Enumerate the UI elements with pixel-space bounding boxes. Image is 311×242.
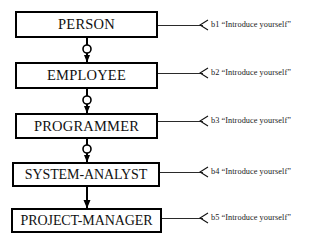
node-box-system-analyst[interactable]: SYSTEM-ANALYST bbox=[12, 162, 160, 187]
node-box-programmer[interactable]: PROGRAMMER bbox=[15, 113, 158, 139]
message-label-b5: b5 “Introduce yourself” bbox=[211, 213, 291, 222]
message-arrowhead-b5 bbox=[199, 212, 209, 224]
node-label-person: PERSON bbox=[58, 17, 115, 32]
node-box-employee[interactable]: EMPLOYEE bbox=[15, 62, 158, 89]
node-label-employee: EMPLOYEE bbox=[47, 68, 126, 83]
message-label-b3: b3 “Introduce yourself” bbox=[211, 116, 291, 125]
connector-person-employee bbox=[79, 38, 95, 63]
connector-system-analyst-project-manager bbox=[79, 187, 95, 209]
message-line-b4 bbox=[160, 172, 203, 173]
node-label-programmer: PROGRAMMER bbox=[34, 119, 139, 134]
node-label-system-analyst: SYSTEM-ANALYST bbox=[25, 168, 147, 182]
node-box-project-manager[interactable]: PROJECT-MANAGER bbox=[11, 208, 162, 233]
message-line-b2 bbox=[158, 73, 203, 74]
message-label-b2: b2 “Introduce yourself” bbox=[211, 68, 291, 77]
node-box-person[interactable]: PERSON bbox=[15, 11, 158, 38]
message-arrowhead-b2 bbox=[199, 67, 209, 79]
message-arrowhead-b1 bbox=[199, 19, 209, 31]
connector-programmer-system-analyst bbox=[79, 139, 95, 163]
message-label-b1: b1 “Introduce yourself” bbox=[211, 20, 291, 29]
diagram-canvas: PERSON b1 “Introduce yourself” EMPLOYEE … bbox=[0, 0, 311, 242]
message-line-b5 bbox=[162, 218, 203, 219]
message-arrowhead-b4 bbox=[199, 166, 209, 178]
message-label-b4: b4 “Introduce yourself” bbox=[211, 167, 291, 176]
connector-employee-programmer bbox=[79, 89, 95, 114]
message-line-b1 bbox=[158, 25, 203, 26]
message-line-b3 bbox=[158, 121, 203, 122]
node-label-project-manager: PROJECT-MANAGER bbox=[21, 214, 153, 228]
message-arrowhead-b3 bbox=[199, 115, 209, 127]
